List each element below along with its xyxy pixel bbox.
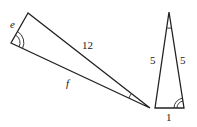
label-1: 1	[166, 111, 172, 123]
double-angle-arc-outer	[174, 98, 183, 108]
label-5-right: 5	[180, 54, 186, 66]
left-triangle: e 12 f	[10, 13, 150, 108]
single-angle-arc	[129, 94, 131, 98]
label-5-left: 5	[150, 54, 156, 66]
label-12: 12	[82, 39, 93, 51]
label-e: e	[10, 18, 15, 30]
double-angle-arc-inner	[177, 101, 183, 108]
right-triangle: 5 5 1	[150, 12, 186, 123]
label-f: f	[66, 77, 71, 89]
similar-triangles-diagram: e 12 f 5 5 1	[0, 0, 197, 127]
